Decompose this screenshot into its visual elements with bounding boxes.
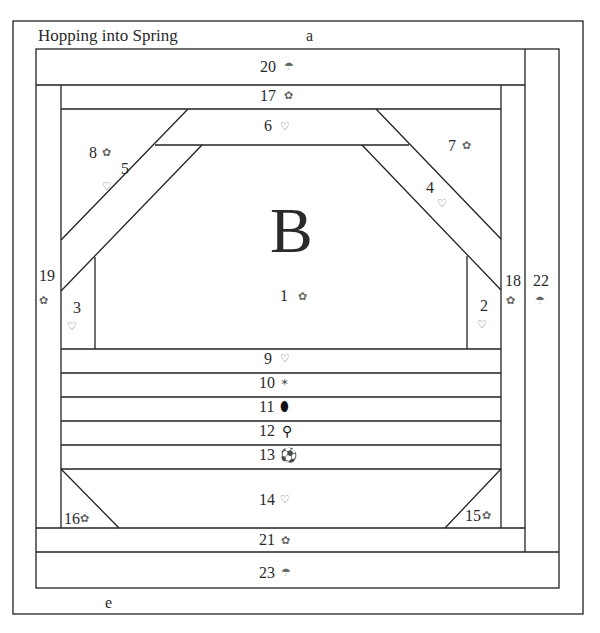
piece-number-12: 12 <box>259 422 275 439</box>
piece-number-5: 5 <box>121 160 129 177</box>
piece-number-2: 2 <box>480 297 488 314</box>
pattern-diagram: Hopping into Spring a e B 1✿2♡3♡4♡5♡6♡7✿… <box>0 0 600 633</box>
piece-number-7: 7 <box>448 137 456 154</box>
outer-border <box>13 21 583 614</box>
piece-number-1: 1 <box>280 287 288 304</box>
ribbon-icon: ✿ <box>298 290 307 302</box>
ribbon-icon: ✿ <box>102 146 111 158</box>
heart-arrow-icon: ♡ <box>477 318 487 330</box>
shuttlecock-icon: ✶ <box>280 376 289 388</box>
piece-number-20: 20 <box>260 58 276 75</box>
piece-number-18: 18 <box>505 272 521 289</box>
umbrella-icon: ☂ <box>284 60 294 72</box>
heart-arrow-icon: ♡ <box>280 120 290 132</box>
soccer-ball-icon: ⚽ <box>279 447 297 464</box>
piece-number-15: 15 <box>465 507 481 524</box>
piece-number-3: 3 <box>73 299 81 316</box>
ribbon-icon: ✿ <box>284 89 293 101</box>
ribbon-icon: ✿ <box>462 139 471 151</box>
heart-arrow-icon: ♡ <box>280 352 290 364</box>
ribbon-icon: ✿ <box>39 294 48 306</box>
football-icon: ⬮ <box>280 399 289 414</box>
umbrella-icon: ☂ <box>535 294 545 306</box>
piece-number-6: 6 <box>264 117 272 134</box>
piece-number-21: 21 <box>259 531 275 548</box>
piece-number-8: 8 <box>89 144 97 161</box>
piece-number-14: 14 <box>259 491 275 508</box>
edge-label-bottom: e <box>105 594 112 611</box>
piece-number-19: 19 <box>39 267 55 284</box>
piece-number-11: 11 <box>259 398 274 415</box>
heart-arrow-icon: ♡ <box>437 197 447 209</box>
ribbon-icon: ✿ <box>482 509 491 521</box>
piece-number-16: 16 <box>64 510 80 527</box>
piece-number-23: 23 <box>259 564 275 581</box>
piece-number-17: 17 <box>260 87 276 104</box>
umbrella-icon: ☂ <box>281 566 291 578</box>
ribbon-icon: ✿ <box>506 294 515 306</box>
seam-7 <box>376 109 501 239</box>
ribbon-icon: ✿ <box>80 512 89 524</box>
golf-tee-icon: ⚲ <box>282 424 292 439</box>
ribbon-icon: ✿ <box>281 534 290 546</box>
heart-arrow-icon: ♡ <box>67 320 77 332</box>
heart-arrow-icon: ♡ <box>280 493 290 505</box>
piece-number-10: 10 <box>259 374 275 391</box>
block-letter: B <box>270 195 313 266</box>
piece-number-22: 22 <box>533 272 549 289</box>
piece-number-13: 13 <box>259 446 275 463</box>
pattern-title: Hopping into Spring <box>38 26 178 45</box>
edge-label-top: a <box>306 27 313 44</box>
piece-number-9: 9 <box>264 350 272 367</box>
piece-number-4: 4 <box>426 179 434 196</box>
heart-arrow-icon: ♡ <box>102 180 112 192</box>
